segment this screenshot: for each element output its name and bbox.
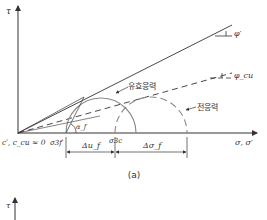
total-stress-label: 전응력 <box>197 102 218 112</box>
origin-label: c′, c_cu ≈ 0 <box>2 138 46 147</box>
tau-axis-label: τ <box>6 6 12 16</box>
effective-envelope-line <box>18 25 232 133</box>
effective-stress-label: 유효응력 <box>128 81 156 91</box>
delta-sigma-label: Δσ_f <box>142 141 163 150</box>
failure-plane-lines <box>18 97 100 133</box>
mohr-coulomb-diagram: τ σ, σ′ c′, c_cu ≈ 0 φ′ φ_cu 유효응력 전응력 α_… <box>0 0 267 220</box>
sigma-axis-label: σ, σ′ <box>235 138 253 147</box>
delta-u-label: Δu_f <box>81 141 102 150</box>
effective-label-leader <box>116 87 128 93</box>
sigma3f-label: σ3f′ <box>50 139 64 147</box>
sigma3c-label: σ3c <box>109 137 122 145</box>
figure-b-tau-label: τ <box>6 201 11 210</box>
phi-prime-label: φ′ <box>234 29 242 38</box>
total-label-leader <box>186 107 196 110</box>
phi-cu-angle-icon <box>210 73 231 78</box>
phi-prime-angle-icon <box>215 31 232 36</box>
phi-cu-label: φ_cu <box>234 71 253 80</box>
alpha-f-label: α_f <box>76 123 88 131</box>
figure-a-caption: (a) <box>128 170 141 180</box>
